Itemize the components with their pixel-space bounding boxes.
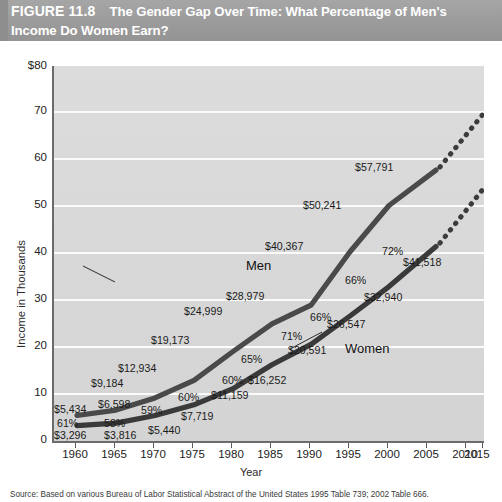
women-value-1985: $16,252 [248, 374, 286, 386]
percent-1965: 58% [104, 417, 125, 429]
women-value-1990: $20,591 [288, 344, 326, 356]
percent-1980: 60% [222, 374, 243, 386]
women-value-1980: $11,159 [211, 389, 249, 401]
y-tick-80: $80 [3, 59, 47, 71]
women-value-1965: $3,816 [104, 429, 136, 441]
women-series-label: Women [345, 341, 390, 356]
men-value-1975: $12,934 [118, 362, 156, 374]
figure-header-bar: FIGURE 11.8 The Gender Gap Over Time: Wh… [0, 0, 502, 41]
x-axis-ticks: 1960 1965 1970 1975 1980 1985 1990 1995 … [0, 448, 502, 464]
figure-container: FIGURE 11.8 The Gender Gap Over Time: Wh… [0, 0, 502, 502]
figure-source-note: Source: Based on various Bureau of Labor… [10, 490, 502, 499]
men-value-1960: $5,434 [54, 403, 86, 415]
percent-1990: 71% [281, 330, 302, 342]
women-value-1995: $26,547 [327, 318, 365, 330]
men-label-leader-line [83, 266, 115, 282]
men-value-1985: $24,999 [184, 305, 222, 317]
x-tick-2015: 2015 [464, 448, 502, 460]
women-value-1975: $7,719 [181, 410, 213, 422]
y-tick-10: 10 [3, 386, 47, 398]
percent-1975: 60% [178, 391, 199, 403]
percent-1960: 61% [57, 417, 78, 429]
y-tick-0: 0 [3, 433, 47, 445]
women-value-2006: $41,518 [403, 256, 441, 268]
percent-2006: 72% [382, 245, 403, 257]
men-value-1965: $6,598 [98, 398, 130, 410]
y-tick-50: 50 [3, 198, 47, 210]
men-value-1980: $19,173 [151, 334, 189, 346]
y-tick-60: 60 [3, 151, 47, 163]
percent-1970: 59% [141, 404, 162, 416]
women-value-1960: $3,296 [54, 429, 86, 441]
header-accent-strip [0, 0, 8, 41]
y-axis-ticks: $80 70 60 50 40 30 20 10 0 Income in Tho… [0, 66, 47, 443]
men-value-2000: $50,241 [303, 199, 341, 211]
women-line-projection [440, 188, 484, 243]
figure-number: FIGURE 11.8 [11, 3, 95, 19]
men-value-1990: $28,979 [226, 290, 264, 302]
women-value-1970: $5,440 [148, 424, 180, 436]
y-tick-70: 70 [3, 104, 47, 116]
figure-header-text: FIGURE 11.8 The Gender Gap Over Time: Wh… [11, 2, 495, 40]
men-line-projection [440, 113, 484, 167]
x-axis-title: Year [0, 466, 502, 478]
men-series-label: Men [246, 258, 271, 273]
men-value-1970: $9,184 [91, 377, 123, 389]
men-value-2006: $57,791 [355, 161, 393, 173]
men-value-1995: $40,367 [265, 240, 303, 252]
percent-2000: 66% [345, 274, 366, 286]
percent-1995: 66% [310, 311, 331, 323]
y-axis-title: Income in Thousands [15, 219, 27, 369]
percent-1985: 65% [241, 353, 262, 365]
women-value-2000: $32,940 [364, 291, 402, 303]
